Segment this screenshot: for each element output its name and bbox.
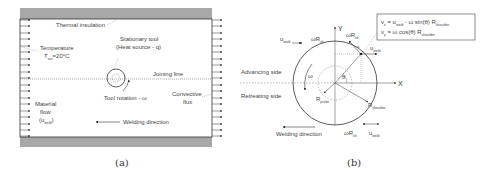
top-dot xyxy=(299,42,301,44)
omega-r-label-top: ωRsh xyxy=(311,36,324,44)
panel-a: Thermal insulation Stationary tool (Heat… xyxy=(20,8,222,168)
x-axis-label: X xyxy=(398,80,403,87)
r-probe-label: Rprobe xyxy=(316,96,329,104)
bottom-insulation-bar xyxy=(20,137,212,147)
temperature-label: Temperature xyxy=(40,45,74,51)
welding-direction-label-a: Welding direction xyxy=(123,119,169,125)
omega-r-label-bottom: ωRsh xyxy=(344,130,357,138)
radius-line xyxy=(335,54,361,83)
r-shoulder-label: Rshoulder xyxy=(368,102,387,110)
y-axis-label: Y xyxy=(338,25,343,32)
omega-r-label-top-right: ωRsh xyxy=(346,32,359,40)
outflow-arrows xyxy=(212,20,222,136)
material-label: Material xyxy=(35,101,56,107)
r-probe-line xyxy=(324,83,335,93)
thermal-insulation-label: Thermal insulation xyxy=(56,22,105,28)
bottom-dot xyxy=(363,123,365,125)
tool-rotation-label: Tool rotation - ω xyxy=(104,95,147,101)
u-weld-label-top: uweld xyxy=(280,36,291,44)
caption-a: (a) xyxy=(115,157,129,168)
advancing-side-label: Advancing side xyxy=(241,69,282,75)
u-weld-label-bottom: uweld xyxy=(369,130,380,138)
vx-marker: vᵢ xyxy=(357,44,360,49)
flux-label: flux xyxy=(183,99,192,105)
stationary-tool-label: Stationary tool xyxy=(120,36,158,42)
welding-direction-label-b: Welding direction xyxy=(276,131,322,137)
u-weld-label-right: uweld xyxy=(370,45,381,53)
caption-b: (b) xyxy=(347,157,361,168)
omega-label: ω xyxy=(308,73,313,79)
figure: Thermal insulation Stationary tool (Heat… xyxy=(0,0,483,173)
retreating-side-label: Retreating side xyxy=(241,93,282,99)
top-insulation-bar xyxy=(20,8,212,19)
domain-rectangle xyxy=(20,19,212,137)
flow-label: flow xyxy=(40,109,51,115)
joining-line-label: Joining line xyxy=(153,71,184,77)
heat-source-label: (Heat source - q) xyxy=(116,44,161,50)
convective-label: Convective xyxy=(172,91,202,97)
panel-b: vx = uweld - ω sin(θ) Rshoulder vy = ω c… xyxy=(240,14,475,168)
